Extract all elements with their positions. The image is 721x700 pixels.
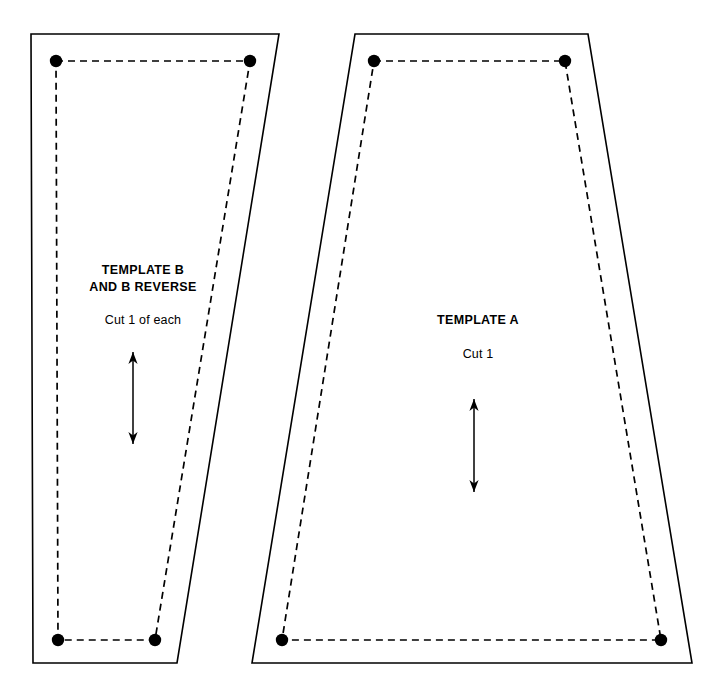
template-b-label-block: TEMPLATE B AND B REVERSE Cut 1 of each	[48, 262, 238, 329]
template-a-dot-bottom-right	[655, 634, 667, 646]
template-b-cut-instruction: Cut 1 of each	[48, 312, 238, 329]
template-b-cutting-line[interactable]	[31, 34, 279, 663]
template-b-piece[interactable]	[31, 34, 279, 663]
template-b-dot-top-right	[244, 55, 256, 67]
template-b-dot-bottom-right	[149, 634, 161, 646]
pattern-sheet: TEMPLATE B AND B REVERSE Cut 1 of each T…	[0, 0, 721, 700]
template-a-cut-instruction: Cut 1	[383, 346, 573, 363]
template-a-title: TEMPLATE A	[383, 312, 573, 329]
template-b-title-line-1: TEMPLATE B	[102, 263, 184, 277]
template-b-title-line-2: AND B REVERSE	[89, 280, 196, 294]
template-a-dot-top-left	[368, 55, 380, 67]
template-b-dot-top-left	[50, 55, 62, 67]
template-a-dot-bottom-left	[276, 634, 288, 646]
template-a-label-block: TEMPLATE A Cut 1	[383, 312, 573, 362]
template-b-dot-bottom-left	[52, 634, 64, 646]
template-a-dot-top-right	[559, 55, 571, 67]
pattern-drawing	[0, 0, 721, 700]
template-a-title-line-1: TEMPLATE A	[437, 313, 519, 327]
template-b-title: TEMPLATE B AND B REVERSE	[48, 262, 238, 295]
